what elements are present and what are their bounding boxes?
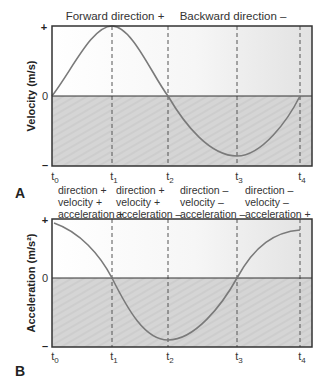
- velocity-chart: Forward direction + Backward direction –…: [15, 10, 312, 201]
- acceleration-chart: direction +velocity +acceleration + dire…: [15, 184, 312, 379]
- y-axis-label: Velocity (m/s): [25, 60, 37, 131]
- positive-region: [52, 26, 312, 96]
- svg-text:t4: t4: [298, 350, 306, 365]
- svg-text:t0: t0: [51, 350, 59, 365]
- svg-text:t2: t2: [166, 350, 174, 365]
- svg-text:t3: t3: [235, 350, 243, 365]
- svg-text:t2: t2: [166, 170, 174, 185]
- svg-text:t0: t0: [51, 170, 59, 185]
- x-tick-labels: t0 t1 t2 t3 t4: [51, 350, 306, 365]
- y-tick-plus: +: [42, 214, 48, 226]
- panel-letter-b: B: [15, 363, 25, 379]
- phase-labels: direction +velocity +acceleration + dire…: [58, 184, 311, 220]
- svg-text:t4: t4: [298, 170, 306, 185]
- y-axis-label: Acceleration (m/s²): [25, 233, 37, 332]
- svg-text:direction +velocity +accelerat: direction +velocity +acceleration +: [58, 184, 124, 220]
- figure: Forward direction + Backward direction –…: [0, 0, 325, 382]
- svg-text:direction –velocity –accelerat: direction –velocity –acceleration +: [245, 184, 311, 220]
- svg-text:t1: t1: [110, 350, 118, 365]
- y-tick-zero: 0: [42, 272, 48, 284]
- y-tick-plus: +: [41, 21, 47, 33]
- y-tick-zero: 0: [42, 90, 48, 102]
- y-tick-minus: –: [42, 159, 48, 171]
- negative-region: [52, 96, 312, 166]
- header-forward-direction: Forward direction +: [66, 10, 165, 22]
- svg-text:t3: t3: [235, 170, 243, 185]
- svg-text:t1: t1: [110, 170, 118, 185]
- panel-letter-a: A: [15, 185, 25, 201]
- header-backward-direction: Backward direction –: [180, 10, 287, 22]
- y-tick-minus: –: [42, 340, 48, 352]
- svg-text:direction +velocity +accelerat: direction +velocity +acceleration –: [116, 184, 182, 220]
- svg-text:direction –velocity –accelerat: direction –velocity –acceleration –: [180, 184, 246, 220]
- x-tick-labels: t0 t1 t2 t3 t4: [51, 170, 306, 185]
